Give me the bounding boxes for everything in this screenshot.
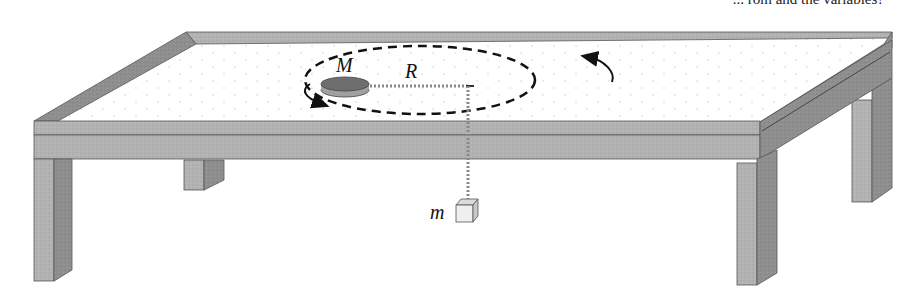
label-R: R xyxy=(404,60,417,82)
table-diagram: M R m xyxy=(0,0,908,294)
back-left-leg xyxy=(184,160,224,190)
puck-M xyxy=(321,77,369,97)
front-right-leg xyxy=(737,150,777,285)
table-front-apron xyxy=(34,135,760,159)
table-front-rim xyxy=(34,121,760,135)
label-m: m xyxy=(430,201,444,223)
label-M: M xyxy=(335,54,354,76)
hanging-block-m xyxy=(456,199,478,222)
front-left-leg xyxy=(34,159,72,281)
